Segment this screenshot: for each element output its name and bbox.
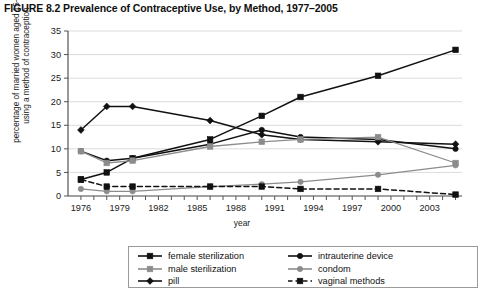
y-tick-label: 25 <box>51 73 61 83</box>
x-axis-label: year <box>0 218 484 228</box>
x-axis: 1976197919821985198819911994199720002003 <box>68 196 462 213</box>
x-tick-label: 1976 <box>71 203 91 213</box>
x-tick-label: 1988 <box>226 203 246 213</box>
data-point <box>375 172 380 177</box>
data-point <box>130 184 136 190</box>
data-point <box>207 144 213 150</box>
x-tick-label: 1985 <box>187 203 207 213</box>
data-point <box>453 163 458 168</box>
legend-item: male sterilization <box>137 264 287 274</box>
legend-item: condom <box>287 264 447 274</box>
legend-swatch-square-icon <box>137 264 163 274</box>
data-point <box>104 170 110 176</box>
data-point <box>207 117 214 124</box>
legend-marker <box>297 266 302 271</box>
legend-item: vaginal methods <box>287 276 447 286</box>
data-point <box>375 134 381 140</box>
series-line <box>81 180 456 195</box>
data-point <box>259 113 265 119</box>
y-tick-label: 10 <box>51 144 61 154</box>
data-point <box>78 177 84 183</box>
data-point <box>298 137 304 143</box>
legend-label: pill <box>168 276 179 286</box>
x-tick-label: 1991 <box>264 203 284 213</box>
data-point <box>129 103 136 110</box>
data-point <box>298 94 304 100</box>
x-tick-label: 1997 <box>342 203 362 213</box>
data-point <box>104 184 110 190</box>
legend-label: male sterilization <box>168 264 236 274</box>
data-point <box>78 148 84 154</box>
data-point <box>259 127 264 132</box>
y-axis: 05101520253035 <box>51 26 68 201</box>
line-chart: 05101520253035 1976197919821985198819911… <box>0 0 484 215</box>
legend-swatch-square-icon <box>137 251 163 261</box>
data-point <box>104 160 110 166</box>
data-point <box>453 47 459 53</box>
series-line <box>81 137 456 163</box>
x-tick-label: 2000 <box>381 203 401 213</box>
x-tick-label: 1982 <box>148 203 168 213</box>
legend-label: intrauterine device <box>318 251 393 261</box>
y-tick-label: 30 <box>51 50 61 60</box>
data-point <box>375 186 381 192</box>
data-point <box>259 139 265 145</box>
data-point <box>130 158 136 164</box>
legend-swatch-circle-icon <box>287 251 313 261</box>
legend-marker <box>147 278 154 285</box>
data-point <box>259 184 265 190</box>
legend-grid: female sterilizationintrauterine devicem… <box>137 250 447 288</box>
legend-marker <box>147 266 153 272</box>
legend-swatch-square-icon <box>287 276 313 286</box>
data-point <box>453 192 459 198</box>
data-point <box>298 186 304 192</box>
y-tick-label: 15 <box>51 120 61 130</box>
legend-item: female sterilization <box>137 251 287 261</box>
legend-swatch-diamond-icon <box>137 276 163 286</box>
legend-marker <box>147 253 153 259</box>
data-point <box>298 179 303 184</box>
y-tick-label: 5 <box>56 168 61 178</box>
series-vaginal-methods <box>78 177 458 198</box>
legend-item: intrauterine device <box>287 251 447 261</box>
legend-item: pill <box>137 276 287 286</box>
gridlines <box>68 31 462 172</box>
figure-container: FIGURE 8.2 Prevalence of Contraceptive U… <box>0 0 484 288</box>
data-point <box>78 186 83 191</box>
legend-marker <box>297 254 302 259</box>
data-point <box>453 146 458 151</box>
y-tick-label: 35 <box>51 26 61 36</box>
series-line <box>81 130 456 161</box>
data-point <box>207 184 213 190</box>
data-point <box>375 73 381 79</box>
legend-label: female sterilization <box>168 251 244 261</box>
y-tick-label: 20 <box>51 97 61 107</box>
plot-area: 05101520253035 1976197919821985198819911… <box>0 0 484 215</box>
legend: female sterilizationintrauterine devicem… <box>128 246 478 288</box>
legend-label: vaginal methods <box>318 276 385 286</box>
series-male-sterilization <box>78 134 458 166</box>
legend-swatch-circle-icon <box>287 264 313 274</box>
x-tick-label: 1994 <box>303 203 323 213</box>
y-tick-label: 0 <box>56 191 61 201</box>
legend-label: condom <box>318 264 351 274</box>
series-layer <box>78 47 459 197</box>
legend-marker <box>297 279 303 285</box>
x-tick-label: 1979 <box>109 203 129 213</box>
x-tick-label: 2003 <box>419 203 439 213</box>
